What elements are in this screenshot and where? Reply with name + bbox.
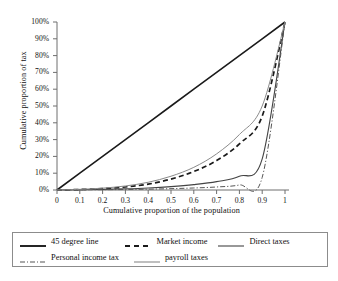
legend-label-market-income: Market income (156, 237, 207, 247)
legend-item-payroll-taxes: payroll taxes (133, 253, 208, 263)
legend-label-45-degree-line: 45 degree line (51, 237, 98, 247)
legend-item-market-income: Market income (124, 237, 207, 247)
data-series-group (57, 22, 285, 191)
x-tick-label: 0.6 (182, 196, 206, 205)
x-tick-label: 1 (273, 196, 297, 205)
x-tick-label: 0.7 (205, 196, 229, 205)
x-tick-label: 0.4 (136, 196, 160, 205)
y-tick-label: 0% (19, 185, 49, 194)
legend-swatch-payroll-taxes (133, 253, 161, 263)
x-axis-title: Cumulative proportion of the population (57, 206, 286, 215)
x-tick-label: 0.2 (91, 196, 115, 205)
legend-swatch-market-income (124, 237, 152, 247)
legend-item-personal-income-tax: Personal income tax (19, 253, 119, 263)
legend-item-45-degree-line: 45 degree line (19, 237, 98, 247)
x-tick-label: 0.1 (68, 196, 92, 205)
legend-label-personal-income-tax: Personal income tax (51, 253, 119, 263)
x-tick-label: 0.8 (227, 196, 251, 205)
chart-legend: 45 degree line Market income Direct taxe… (12, 232, 328, 267)
series-line-45-degree-line (57, 22, 285, 190)
y-axis-title: Cumulative proportion of tax (19, 26, 28, 176)
legend-label-direct-taxes: Direct taxes (249, 237, 289, 247)
lorenz-curve-chart: 100% 90% 80% 70% 60% 50% 40% 30% 20% 10%… (0, 0, 338, 281)
x-tick-label: 0 (45, 196, 69, 205)
legend-label-payroll-taxes: payroll taxes (165, 253, 208, 263)
legend-swatch-45-degree-line (19, 237, 47, 247)
x-tick-label: 0.3 (113, 196, 137, 205)
y-axis-ticks (53, 22, 57, 190)
legend-swatch-personal-income-tax (19, 253, 47, 263)
x-tick-label: 0.9 (250, 196, 274, 205)
legend-row-2: Personal income tax payroll taxes (13, 250, 327, 266)
legend-row-1: 45 degree line Market income Direct taxe… (13, 234, 327, 250)
legend-swatch-direct-taxes (217, 237, 245, 247)
x-tick-label: 0.5 (159, 196, 183, 205)
legend-item-direct-taxes: Direct taxes (217, 237, 289, 247)
